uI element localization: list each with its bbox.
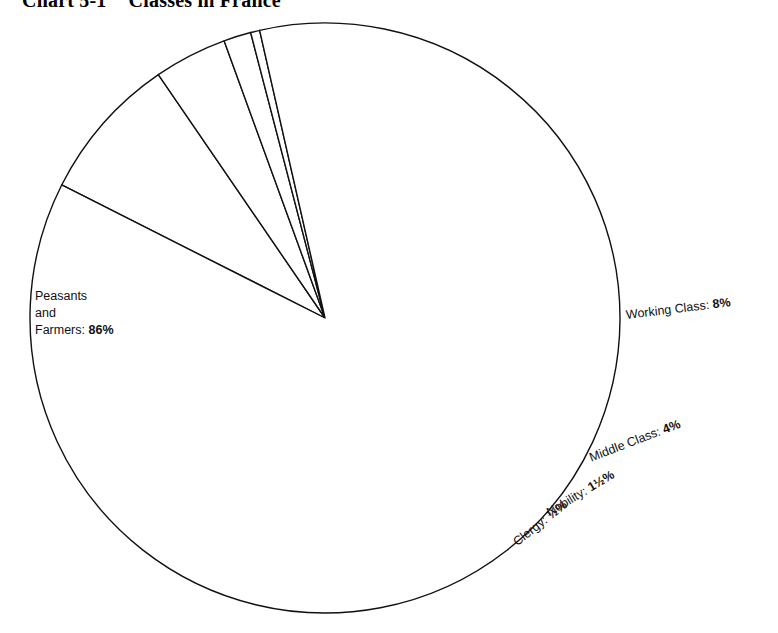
slice-value-peasants: 86% [88, 323, 113, 337]
slice-label-peasants-line3: Farmers: 86% [35, 322, 114, 339]
slice-label-peasants-line2: and [35, 305, 114, 322]
slice-value-working-class: 8% [712, 295, 732, 311]
chart-page: Chart 5-1Classes in France Peasants and … [0, 0, 778, 633]
slice-label-peasants-line3-text: Farmers: [35, 323, 85, 337]
slice-label-peasants-line1: Peasants [35, 288, 114, 305]
slice-label-peasants: Peasants and Farmers: 86% [35, 288, 114, 339]
